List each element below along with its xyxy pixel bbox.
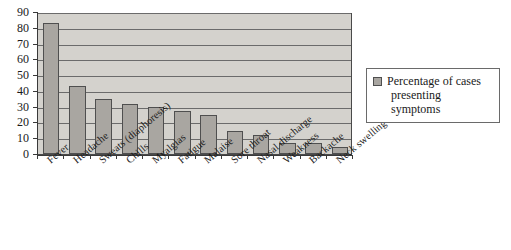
bar-slot [222, 14, 248, 154]
y-axis-tick [33, 28, 38, 29]
y-axis-tick-label: 30 [3, 102, 29, 112]
bar [43, 23, 59, 154]
bars-layer [38, 14, 351, 154]
y-axis-tick-label: 50 [3, 70, 29, 80]
y-axis-tick [33, 138, 38, 139]
legend-label: Percentage of casespresenting symptoms [387, 74, 493, 116]
y-axis-tick [33, 122, 38, 123]
bar-slot [196, 14, 222, 154]
y-axis-tick-label: 10 [3, 133, 29, 143]
y-axis-tick [33, 75, 38, 76]
y-axis-tick [33, 44, 38, 45]
plot-area [37, 13, 352, 155]
legend-item: Percentage of casespresenting symptoms [373, 74, 493, 116]
y-axis-tick [33, 91, 38, 92]
bar-slot [143, 14, 169, 154]
y-axis-tick-label: 70 [3, 39, 29, 49]
y-axis-labels: 0102030405060708090 [0, 13, 37, 155]
legend-swatch-icon [373, 77, 382, 86]
legend-label-line2: presenting symptoms [387, 88, 493, 116]
y-axis-tick-label: 80 [3, 23, 29, 33]
y-axis-tick-label: 60 [3, 54, 29, 64]
y-axis-tick-label: 90 [3, 7, 29, 17]
bar [69, 86, 85, 154]
y-axis-tick [33, 107, 38, 108]
chart-legend: Percentage of casespresenting symptoms [366, 68, 500, 123]
bar-chart: 0102030405060708090 FeverHeadacheSweats … [0, 0, 511, 250]
x-axis-labels: FeverHeadacheSweats (diaphoresis)ChillsM… [37, 157, 353, 247]
bar-slot [64, 14, 90, 154]
y-axis-tick [33, 12, 38, 13]
y-axis-line [37, 13, 38, 155]
bar-slot [38, 14, 64, 154]
y-axis-tick-label: 40 [3, 86, 29, 96]
y-axis-tick-label: 20 [3, 117, 29, 127]
y-axis-tick [33, 59, 38, 60]
legend-label-line1: Percentage of cases [387, 74, 481, 88]
y-axis-tick-label: 0 [3, 149, 29, 159]
